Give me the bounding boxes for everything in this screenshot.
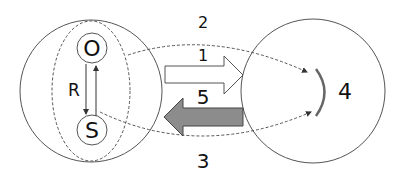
right-target-circle <box>241 19 385 163</box>
label-5: 5 <box>197 85 210 109</box>
diagram: O S R 4 2 3 1 5 <box>0 0 403 183</box>
r-label: R <box>68 80 80 100</box>
target-label: 4 <box>338 79 352 104</box>
target-arc <box>316 69 325 116</box>
label-3: 3 <box>197 149 210 173</box>
label-2: 2 <box>198 13 208 32</box>
o-label: O <box>83 36 100 61</box>
label-1: 1 <box>198 46 208 65</box>
s-label: S <box>85 118 99 143</box>
